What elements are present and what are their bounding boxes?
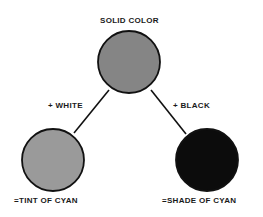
shade-circle bbox=[176, 129, 238, 191]
connector-line-left bbox=[74, 90, 109, 133]
plus-white-label: + WHITE bbox=[48, 101, 83, 110]
tint-circle bbox=[22, 129, 84, 191]
solid-color-label: SOLID COLOR bbox=[100, 16, 159, 25]
solid-color-circle bbox=[98, 31, 160, 93]
shade-result-label: =SHADE OF CYAN bbox=[162, 196, 236, 205]
diagram-canvas bbox=[0, 0, 263, 217]
connector-line-right bbox=[151, 90, 186, 134]
plus-black-label: + BLACK bbox=[173, 101, 210, 110]
tint-result-label: =TINT OF CYAN bbox=[14, 196, 78, 205]
